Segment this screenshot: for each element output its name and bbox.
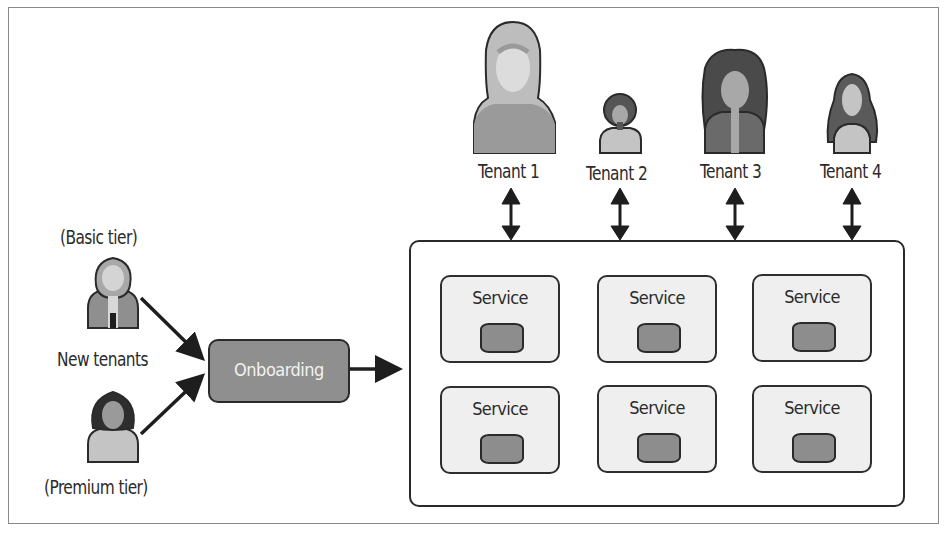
arrow-premium-to-onboarding (141, 378, 200, 434)
service-box-3: Service (752, 274, 872, 362)
bidirectional-arrow-tenant-1 (502, 188, 520, 240)
bidirectional-arrow-tenant-3 (726, 188, 744, 240)
tenant-arrows (502, 188, 861, 240)
service-box-6: Service (752, 385, 872, 473)
database-icon (480, 434, 524, 464)
service-label: Service (754, 286, 870, 307)
basic-tier-label: (Basic tier) (60, 226, 137, 248)
database-icon (792, 322, 836, 352)
tenant-1-label: Tenant 1 (478, 160, 539, 182)
tenant-1-avatar-icon (474, 22, 555, 153)
bidirectional-arrow-tenant-4 (843, 188, 861, 240)
basic-tier-person-icon (88, 258, 138, 328)
service-box-5: Service (597, 385, 717, 473)
database-icon (637, 323, 681, 353)
tenant-4-avatar-icon (828, 74, 878, 153)
database-icon (792, 433, 836, 463)
new-tenants-label: New tenants (57, 348, 148, 370)
service-box-4: Service (440, 386, 560, 474)
tenant-2-avatar-icon (600, 94, 641, 153)
service-box-1: Service (440, 275, 560, 363)
tenant-2-label: Tenant 2 (586, 162, 647, 184)
bidirectional-arrow-tenant-2 (611, 188, 629, 240)
tenant-4-label: Tenant 4 (820, 160, 881, 182)
service-label: Service (754, 397, 870, 418)
premium-tier-person-icon (88, 392, 138, 462)
database-icon (480, 323, 524, 353)
premium-tier-label: (Premium tier) (44, 476, 148, 498)
service-box-2: Service (597, 275, 717, 363)
arrow-basic-to-onboarding (141, 298, 200, 356)
database-icon (637, 433, 681, 463)
tenant-3-label: Tenant 3 (700, 160, 761, 182)
onboarding-box: Onboarding (208, 339, 350, 403)
tenant-3-avatar-icon (703, 50, 768, 153)
service-label: Service (599, 287, 715, 308)
service-label: Service (442, 398, 558, 419)
service-label: Service (599, 397, 715, 418)
service-label: Service (442, 287, 558, 308)
onboarding-label: Onboarding (210, 359, 348, 380)
